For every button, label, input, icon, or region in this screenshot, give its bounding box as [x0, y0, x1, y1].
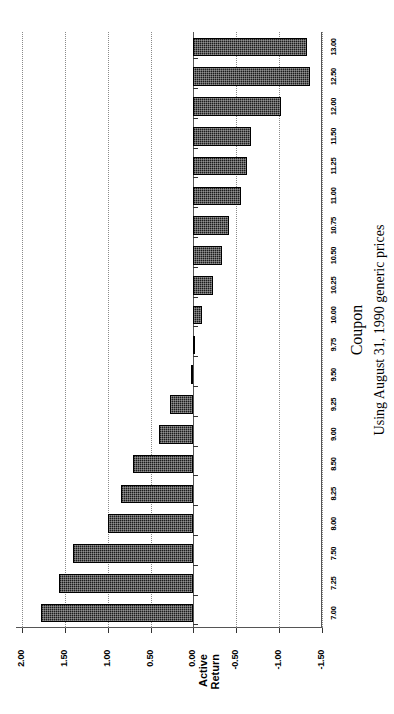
bar	[193, 97, 280, 115]
bar	[193, 38, 307, 56]
gridline	[108, 32, 109, 628]
value-tick-label: 0.50	[145, 650, 155, 692]
category-tick-label: 11.50	[329, 119, 338, 153]
category-tick	[193, 267, 198, 268]
gridline	[65, 32, 66, 628]
value-tick	[322, 628, 323, 633]
category-tick	[193, 177, 198, 178]
category-tick	[193, 326, 198, 327]
category-tick	[193, 475, 198, 476]
category-tick-label: 10.00	[329, 298, 338, 332]
value-tick	[193, 628, 194, 633]
gridline	[151, 32, 152, 628]
bar	[191, 365, 194, 383]
category-tick-label: 9.00	[329, 417, 338, 451]
category-tick-label: 9.75	[329, 328, 338, 362]
bar	[193, 246, 221, 264]
bar	[121, 485, 194, 503]
gridline	[22, 32, 23, 628]
bar	[41, 604, 194, 622]
bar	[108, 514, 194, 532]
category-tick-label: 8.00	[329, 507, 338, 541]
value-tick	[236, 628, 237, 633]
category-tick-label: 7.00	[329, 596, 338, 630]
bar	[193, 157, 246, 175]
value-tick	[22, 628, 23, 633]
gridline	[322, 32, 323, 628]
category-tick-label: 10.25	[329, 268, 338, 302]
category-tick	[193, 565, 198, 566]
value-axis-line	[16, 627, 322, 628]
value-tick-label: 1.00	[102, 650, 112, 692]
category-tick-label: 10.75	[329, 209, 338, 243]
plot-area	[22, 32, 322, 628]
bar	[193, 306, 202, 324]
category-tick-label: 9.25	[329, 388, 338, 422]
bar	[170, 395, 193, 413]
category-axis-title: Coupon	[348, 230, 366, 430]
category-tick	[193, 505, 198, 506]
category-tick	[193, 356, 198, 357]
category-tick	[193, 297, 198, 298]
category-tick-label: 12.50	[329, 60, 338, 94]
footnote: Using August 31, 1990 generic prices	[372, 130, 388, 530]
value-tick-label: -1.00	[273, 650, 283, 692]
value-tick-label: 0.00	[187, 650, 197, 692]
value-tick-label: 2.00	[16, 650, 26, 692]
category-tick	[193, 416, 198, 417]
gridline	[193, 32, 194, 628]
value-tick	[151, 628, 152, 633]
category-tick	[193, 386, 198, 387]
value-tick-label: -0.50	[230, 650, 240, 692]
bar	[73, 544, 193, 562]
bar	[193, 276, 213, 294]
rotated-figure-wrapper: 2.001.501.000.500.00-0.50-1.00-1.50 7.00…	[0, 0, 394, 714]
category-tick-label: 8.50	[329, 447, 338, 481]
category-tick	[193, 148, 198, 149]
bar	[193, 336, 195, 354]
category-tick-label: 7.25	[329, 566, 338, 600]
category-tick-label: 9.50	[329, 358, 338, 392]
value-tick-label: 1.50	[59, 650, 69, 692]
chart-page: 2.001.501.000.500.00-0.50-1.00-1.50 7.00…	[0, 0, 394, 714]
value-axis-title: ActiveReturn	[197, 654, 221, 714]
gridline	[279, 32, 280, 628]
category-tick	[193, 237, 198, 238]
category-tick	[193, 595, 198, 596]
value-tick	[108, 628, 109, 633]
category-tick	[193, 535, 198, 536]
bar	[193, 67, 310, 85]
category-tick	[193, 624, 198, 625]
category-tick	[193, 118, 198, 119]
bar	[59, 574, 194, 592]
value-tick	[65, 628, 66, 633]
category-tick	[193, 58, 198, 59]
category-tick-label: 8.25	[329, 477, 338, 511]
bar	[193, 127, 250, 145]
category-tick	[193, 446, 198, 447]
category-tick	[193, 88, 198, 89]
figure: 2.001.501.000.500.00-0.50-1.00-1.50 7.00…	[0, 0, 394, 714]
category-tick-label: 11.00	[329, 179, 338, 213]
bar	[159, 425, 193, 443]
value-tick	[279, 628, 280, 633]
value-tick-label: -1.50	[316, 650, 326, 692]
bar	[193, 187, 240, 205]
category-tick-label: 13.00	[329, 30, 338, 64]
gridline	[236, 32, 237, 628]
bar	[133, 455, 193, 473]
category-tick	[193, 207, 198, 208]
category-tick-label: 12.00	[329, 90, 338, 124]
category-tick-label: 10.50	[329, 239, 338, 273]
value-axis-title-line: Return	[209, 654, 221, 714]
bar	[193, 216, 229, 234]
category-tick-label: 11.25	[329, 149, 338, 183]
value-axis-title-line: Active	[197, 654, 209, 714]
category-tick-label: 7.50	[329, 537, 338, 571]
